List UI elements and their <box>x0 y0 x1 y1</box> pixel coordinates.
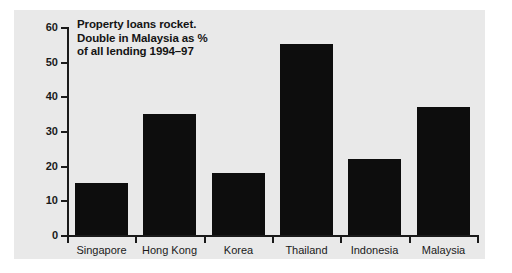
x-axis-label-malaysia: Malaysia <box>409 243 478 257</box>
bar-korea <box>212 173 265 235</box>
chart-title-line-1: Property loans rocket. <box>77 18 257 32</box>
y-axis-tick <box>61 131 67 133</box>
x-axis-label-thailand: Thailand <box>272 243 341 257</box>
bar-malaysia <box>417 107 470 235</box>
y-axis-label-20: 20 <box>32 161 58 172</box>
bar-thailand <box>280 44 333 235</box>
y-axis-tick <box>61 166 67 168</box>
y-axis-label-40: 40 <box>32 91 58 102</box>
x-axis-label-korea: Korea <box>204 243 273 257</box>
chart-title-line-2: Double in Malaysia as % <box>77 32 257 46</box>
y-axis-tick <box>61 62 67 64</box>
chart-title-line-3: of all lending 1994–97 <box>77 45 257 59</box>
bar-singapore <box>75 183 128 235</box>
y-axis-tick <box>61 200 67 202</box>
chart-figure: Property loans rocket. Double in Malaysi… <box>0 0 512 273</box>
y-axis-line <box>67 27 69 237</box>
bar-hong-kong <box>143 114 196 235</box>
y-axis-label-50: 50 <box>32 57 58 68</box>
bar-indonesia <box>348 159 401 235</box>
y-axis-label-0: 0 <box>32 230 58 241</box>
chart-title: Property loans rocket. Double in Malaysi… <box>77 18 257 59</box>
x-axis-label-singapore: Singapore <box>67 243 136 257</box>
y-axis-label-10: 10 <box>32 195 58 206</box>
y-axis-label-60: 60 <box>32 22 58 33</box>
y-axis-tick <box>61 96 67 98</box>
x-axis-label-indonesia: Indonesia <box>340 243 409 257</box>
x-axis-label-hong-kong: Hong Kong <box>135 243 204 257</box>
y-axis-label-30: 30 <box>32 126 58 137</box>
y-axis-tick <box>61 27 67 29</box>
